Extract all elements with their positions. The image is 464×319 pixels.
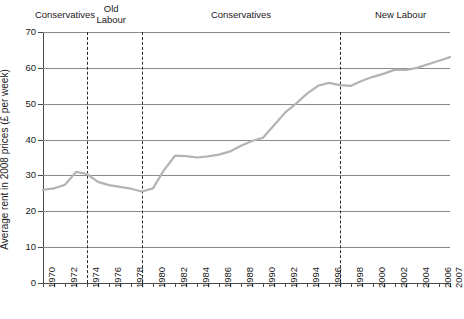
x-tick-label-1990: 1990 xyxy=(267,267,276,288)
y-tick-label-40: 40 xyxy=(16,135,36,145)
x-tick-mark-1980 xyxy=(153,283,154,287)
x-tick-mark-1990 xyxy=(263,283,264,287)
x-tick-mark-2002 xyxy=(395,283,396,287)
x-tick-mark-1994 xyxy=(307,283,308,287)
era-new-labour: New Labour xyxy=(356,9,446,20)
plot-area xyxy=(43,32,450,283)
x-tick-mark-1976 xyxy=(109,283,110,287)
x-tick-label-1976: 1976 xyxy=(113,267,122,288)
x-tick-label-2000: 2000 xyxy=(377,267,386,288)
y-tick-label-20: 20 xyxy=(16,207,36,217)
x-tick-label-1988: 1988 xyxy=(245,267,254,288)
y-tick-label-0: 0 xyxy=(16,278,36,288)
y-tick-label-60: 60 xyxy=(16,63,36,73)
era-conservatives-2: Conservatives xyxy=(196,9,286,20)
era-old-labour: Old Labour xyxy=(66,3,156,25)
y-tick-label-50: 50 xyxy=(16,99,36,109)
x-tick-label-1984: 1984 xyxy=(201,267,210,288)
x-tick-label-1994: 1994 xyxy=(311,267,320,288)
x-tick-label-1996: 1996 xyxy=(333,267,342,288)
y-axis-title-text: Average rent in 2008 prices (£ per week) xyxy=(0,0,12,319)
x-tick-label-1980: 1980 xyxy=(157,267,166,288)
x-tick-label-2002: 2002 xyxy=(399,267,408,288)
x-tick-mark-2004 xyxy=(417,283,418,287)
x-tick-label-2007: 2007 xyxy=(454,267,463,288)
x-tick-label-1986: 1986 xyxy=(223,267,232,288)
x-tick-mark-1984 xyxy=(197,283,198,287)
x-tick-mark-1978 xyxy=(131,283,132,287)
x-tick-label-1998: 1998 xyxy=(355,267,364,288)
x-tick-label-1970: 1970 xyxy=(47,267,56,288)
y-axis-title: Average rent in 2008 prices (£ per week) xyxy=(0,0,12,319)
x-tick-mark-1996 xyxy=(329,283,330,287)
x-tick-mark-1972 xyxy=(65,283,66,287)
x-tick-mark-1998 xyxy=(351,283,352,287)
x-tick-label-1972: 1972 xyxy=(69,267,78,288)
x-tick-mark-1988 xyxy=(241,283,242,287)
x-tick-mark-1974 xyxy=(87,283,88,287)
x-tick-label-2006: 2006 xyxy=(443,267,452,288)
x-tick-mark-1970 xyxy=(43,283,44,287)
x-tick-label-1992: 1992 xyxy=(289,267,298,288)
x-tick-mark-1982 xyxy=(175,283,176,287)
x-tick-mark-2006 xyxy=(439,283,440,287)
rent-line-series xyxy=(43,32,450,283)
y-tick-label-70: 70 xyxy=(16,27,36,37)
y-tick-label-10: 10 xyxy=(16,242,36,252)
x-tick-label-2004: 2004 xyxy=(421,267,430,288)
x-tick-mark-2000 xyxy=(373,283,374,287)
y-tick-label-30: 30 xyxy=(16,171,36,181)
x-tick-mark-1986 xyxy=(219,283,220,287)
x-tick-label-1982: 1982 xyxy=(179,267,188,288)
x-tick-label-1974: 1974 xyxy=(91,267,100,288)
x-tick-mark-1992 xyxy=(285,283,286,287)
x-tick-label-1978: 1978 xyxy=(135,267,144,288)
